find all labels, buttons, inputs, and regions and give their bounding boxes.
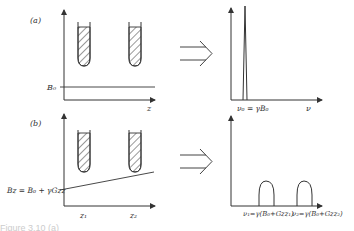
panel-a-label: (a) bbox=[30, 16, 41, 25]
nu-axis-label: ν bbox=[306, 104, 311, 113]
sample-tube-1 bbox=[78, 22, 90, 66]
sharp-peak bbox=[243, 6, 247, 100]
z-axis-label: z bbox=[146, 104, 152, 113]
z1-tick-label: z₁ bbox=[79, 211, 87, 220]
diagram: (a) B₀ z ν₀ = γB₀ ν (b) Bz = B₀ + γGzz z… bbox=[0, 0, 354, 231]
panel-a-right-spectrum bbox=[231, 6, 322, 100]
sample-tube-2 bbox=[129, 22, 141, 66]
gradient-field-line bbox=[60, 172, 154, 190]
figure-caption: Figure 3.10 (a) bbox=[0, 223, 59, 231]
panel-b-right-spectrum bbox=[231, 116, 322, 206]
nu1-label: ν₁=γ(B₀+Gzz₁) bbox=[243, 210, 294, 218]
nu0-label: ν₀ = γB₀ bbox=[237, 104, 269, 113]
panel-a-left-plot bbox=[60, 10, 155, 100]
sample-tube-1 bbox=[78, 130, 90, 172]
double-arrow-b bbox=[180, 149, 212, 174]
b0-label: B₀ bbox=[46, 83, 57, 92]
nu2-label: ν₂=γ(B₀+Gzz₂) bbox=[292, 210, 343, 218]
panel-b-label: (b) bbox=[30, 119, 41, 128]
double-arrow-a bbox=[180, 41, 212, 66]
z2-tick-label: z₂ bbox=[129, 211, 137, 220]
sample-tube-2 bbox=[129, 130, 141, 172]
bz-label: Bz = B₀ + γGzz bbox=[6, 186, 66, 195]
panel-b-left-plot bbox=[60, 114, 155, 206]
broad-peak-1 bbox=[259, 181, 274, 206]
broad-peak-2 bbox=[297, 181, 312, 206]
